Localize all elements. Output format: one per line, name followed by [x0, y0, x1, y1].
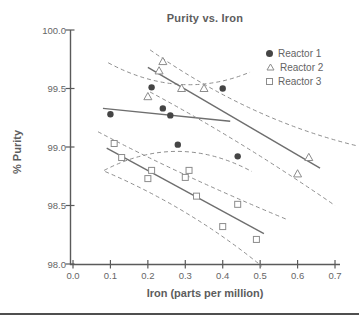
reactor-2-point — [155, 67, 163, 74]
y-tick-label: 98.5 — [48, 200, 67, 211]
y-tick-label: 99.0 — [48, 142, 67, 153]
reactor-3-ci-upper-band — [98, 132, 287, 220]
reactor-3-point — [111, 140, 117, 146]
filled-circle-icon — [266, 50, 273, 57]
reactor-1-point — [175, 141, 181, 147]
reactor-1-ci-lower-band — [104, 151, 252, 171]
reactor-3-fit-line — [107, 148, 264, 233]
reactor-3-point — [186, 167, 192, 173]
legend-item-reactor-3: Reactor 3 — [266, 75, 323, 87]
reactor-3-point — [145, 176, 151, 182]
reactor-2-point — [144, 92, 152, 99]
reactor-1-point — [160, 105, 166, 111]
legend-label-reactor-1: Reactor 1 — [278, 48, 321, 59]
y-tick-label: 99.5 — [48, 83, 67, 94]
bottom-rule — [0, 313, 359, 315]
reactor-3-point — [182, 174, 188, 180]
legend-item-reactor-2: Reactor 2 — [266, 61, 323, 73]
x-tick-label: 0.4 — [216, 270, 229, 281]
reactor-1-ci-upper-band — [108, 63, 250, 85]
reactor-3-point — [253, 236, 259, 242]
y-tick-label: 98.0 — [48, 259, 67, 270]
legend-label-reactor-2: Reactor 2 — [280, 62, 323, 73]
reactor-3-point — [194, 193, 200, 199]
reactor-2-point — [305, 153, 313, 160]
reactor-1-fit-line — [103, 108, 230, 121]
reactor-1-point — [234, 153, 240, 159]
x-tick-label: 0.1 — [104, 270, 117, 281]
figure: Purity vs. Iron 0.00.10.20.30.40.50.60.7… — [0, 0, 359, 323]
legend: Reactor 1 Reactor 2 Reactor 3 — [266, 47, 323, 87]
open-triangle-icon — [266, 63, 275, 71]
reactor-1-point — [107, 111, 113, 117]
reactor-3-point — [220, 224, 226, 230]
legend-item-reactor-1: Reactor 1 — [266, 47, 323, 59]
reactor-2-ci-upper-band — [150, 50, 357, 146]
x-tick-label: 0.6 — [291, 270, 304, 281]
reactor-3-point — [235, 201, 241, 207]
x-tick-label: 0.5 — [254, 270, 267, 281]
x-tick-label: 0.0 — [66, 270, 79, 281]
y-axis-title: % Purity — [11, 130, 23, 174]
reactor-3-ci-lower-band — [105, 172, 262, 267]
reactor-3-point — [119, 155, 125, 161]
reactor-1-point — [148, 84, 154, 90]
reactor-3-point — [149, 167, 155, 173]
x-tick-label: 0.2 — [141, 270, 154, 281]
y-tick-label: 100.0 — [42, 25, 66, 36]
x-axis-title: Iron (parts per million) — [70, 287, 340, 299]
reactor-2-ci-lower-band — [150, 92, 335, 205]
x-tick-label: 0.3 — [179, 270, 192, 281]
legend-label-reactor-3: Reactor 3 — [278, 76, 321, 87]
reactor-1-point — [220, 85, 226, 91]
reactor-2-point — [159, 57, 167, 64]
open-square-icon — [266, 78, 273, 85]
reactor-2-point — [294, 170, 302, 177]
x-tick-label: 0.7 — [328, 270, 341, 281]
reactor-1-point — [167, 112, 173, 118]
